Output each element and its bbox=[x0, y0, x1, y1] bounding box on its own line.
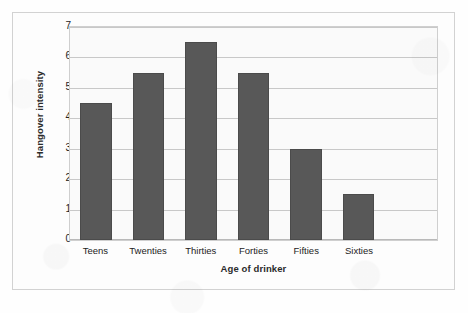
scanned-page: Hangover intensity 01234567 TeensTwentie… bbox=[0, 0, 468, 313]
bar-slot bbox=[175, 27, 227, 240]
bar[interactable] bbox=[290, 149, 321, 240]
bar[interactable] bbox=[133, 73, 164, 240]
bar[interactable] bbox=[80, 103, 111, 240]
x-axis-tick-label bbox=[385, 245, 438, 256]
y-axis-tick-label: 5 bbox=[49, 82, 71, 92]
x-axis-tick-labels: TeensTwentiesThirtiesFortiesFiftiesSixti… bbox=[69, 245, 438, 256]
x-axis-tick-label: Forties bbox=[227, 245, 280, 256]
y-axis-tick-label: 7 bbox=[49, 21, 71, 31]
bar-slot bbox=[70, 27, 122, 240]
y-axis-tick-labels: 01234567 bbox=[49, 26, 71, 241]
y-axis-tick-label: 0 bbox=[49, 234, 71, 244]
bar-slot bbox=[385, 27, 437, 240]
y-axis-tick-label: 1 bbox=[49, 204, 71, 214]
bar[interactable] bbox=[185, 42, 216, 240]
chart-frame: Hangover intensity 01234567 TeensTwentie… bbox=[12, 12, 455, 290]
y-axis-title: Hangover intensity bbox=[34, 45, 45, 185]
y-axis-tick-label: 6 bbox=[49, 51, 71, 61]
x-axis-tick-label: Twenties bbox=[122, 245, 175, 256]
x-axis-tick-label: Teens bbox=[69, 245, 122, 256]
bar[interactable] bbox=[238, 73, 269, 240]
bar-slot bbox=[122, 27, 174, 240]
x-axis-tick-label: Thirties bbox=[174, 245, 227, 256]
bar-slot bbox=[332, 27, 384, 240]
x-axis-tick-label: Sixties bbox=[333, 245, 386, 256]
x-axis-title: Age of drinker bbox=[69, 263, 438, 274]
y-axis-tick-label: 4 bbox=[49, 112, 71, 122]
bar-slot bbox=[227, 27, 279, 240]
plot-area bbox=[69, 26, 438, 241]
y-axis-tick-label: 2 bbox=[49, 173, 71, 183]
x-axis-tick-label: Fifties bbox=[280, 245, 333, 256]
y-axis-tick-label: 3 bbox=[49, 143, 71, 153]
bars-layer bbox=[70, 27, 437, 240]
bar-slot bbox=[280, 27, 332, 240]
bar[interactable] bbox=[343, 194, 374, 240]
